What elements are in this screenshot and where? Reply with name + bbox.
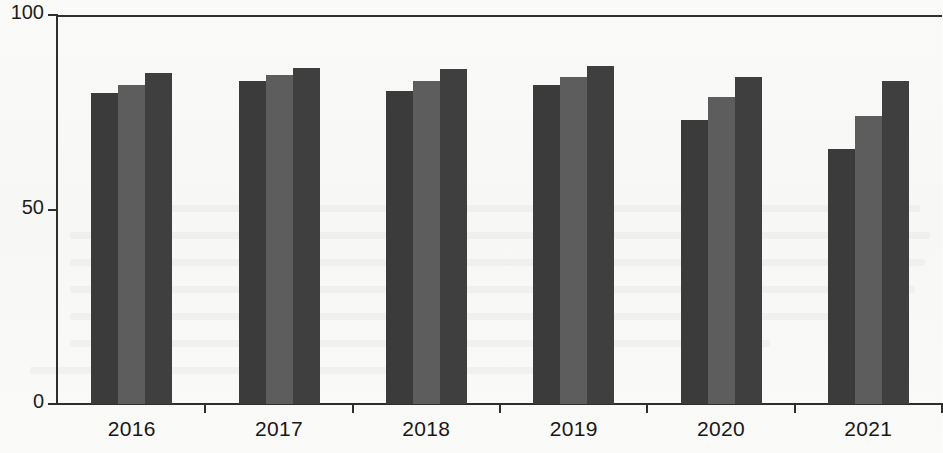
bar-2021-series-1 [828,149,855,404]
bar-group-2018 [386,15,467,404]
x-tick-3 [499,403,501,413]
x-tick-4 [646,403,648,413]
x-tick-label-2019: 2019 [524,417,624,441]
bar-2018-series-2 [413,81,440,404]
bar-2020-series-3 [735,77,762,404]
bar-2016-series-2 [118,85,145,404]
bar-2018-series-1 [386,91,413,404]
y-tick-label-0: 0 [0,390,44,413]
y-tick-label-100: 100 [0,1,44,24]
y-tick-0 [48,403,58,405]
bar-2016-series-1 [91,93,118,404]
x-tick-label-2016: 2016 [82,417,182,441]
bar-2016-series-3 [145,73,172,404]
bar-group-2017 [239,15,320,404]
bar-2017-series-3 [293,68,320,404]
x-tick-2 [352,403,354,413]
bar-2017-series-2 [266,75,293,404]
bar-2021-series-3 [882,81,909,404]
x-tick-label-2021: 2021 [818,417,918,441]
bar-2019-series-2 [560,77,587,404]
bar-2017-series-1 [239,81,266,404]
x-tick-label-2020: 2020 [671,417,771,441]
bar-2020-series-1 [681,120,708,404]
x-tick-label-2017: 2017 [229,417,329,441]
y-tick-label-50: 50 [0,196,44,219]
bar-2018-series-3 [440,69,467,404]
bar-group-2019 [533,15,614,404]
bar-group-2020 [681,15,762,404]
y-tick-50 [48,209,58,211]
bar-2019-series-1 [533,85,560,404]
bar-2020-series-2 [708,97,735,404]
bar-2021-series-2 [855,116,882,404]
x-tick-label-2018: 2018 [376,417,476,441]
bar-group-2021 [828,15,909,404]
bar-2019-series-3 [587,66,614,404]
x-tick-5 [794,403,796,413]
plot-area [58,15,942,404]
y-tick-100 [48,14,58,16]
bar-group-2016 [91,15,172,404]
x-tick-1 [204,403,206,413]
